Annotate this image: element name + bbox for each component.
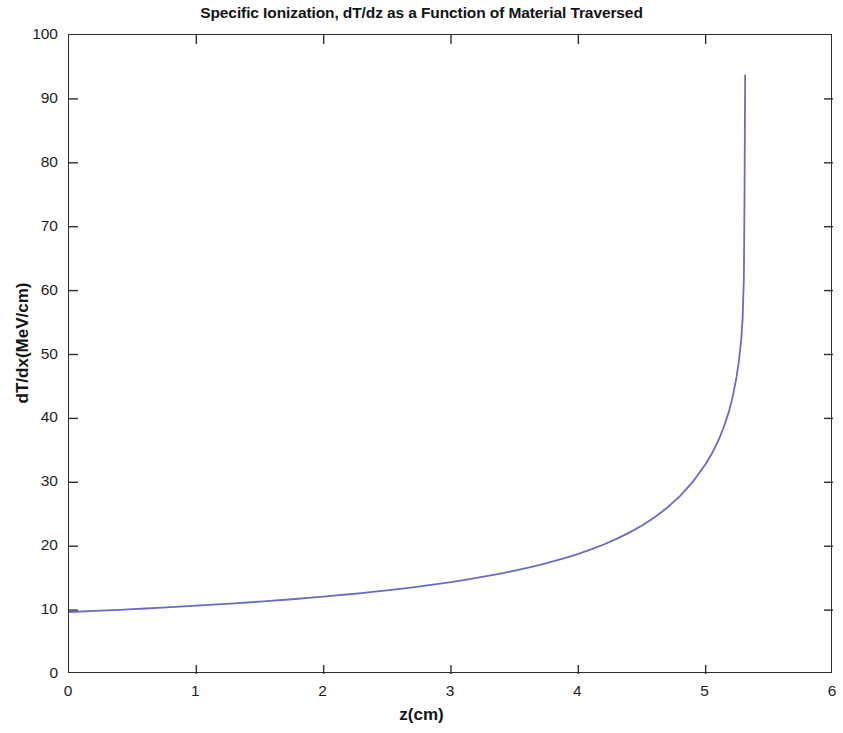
chart-figure: Specific Ionization, dT/dz as a Function… xyxy=(0,0,843,733)
x-tick-label: 1 xyxy=(165,683,225,699)
x-tick-label: 0 xyxy=(38,683,98,699)
y-axis-label: dT/dx(MeV/cm) xyxy=(13,243,33,443)
x-tick-label: 3 xyxy=(420,683,480,699)
x-tick-label: 5 xyxy=(675,683,735,699)
x-axis-tick-labels: 0123456 xyxy=(0,0,843,733)
x-tick-label: 2 xyxy=(293,683,353,699)
x-axis-label: z(cm) xyxy=(0,705,843,725)
x-tick-label: 6 xyxy=(802,683,843,699)
x-tick-label: 4 xyxy=(547,683,607,699)
